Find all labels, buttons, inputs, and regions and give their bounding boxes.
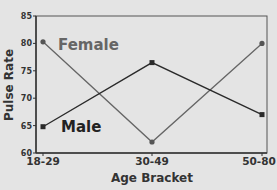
x-tick-label: 50-80	[242, 155, 276, 167]
y-tick-label: 85	[21, 12, 33, 21]
male-point-30-49	[150, 60, 155, 65]
chart-container: 60 65 70 75 80 85 18-29 30-49 50-80 Age …	[0, 0, 277, 190]
x-axis-label: Age Bracket	[111, 171, 193, 185]
y-tick-label: 75	[21, 67, 33, 76]
y-tick-label: 65	[21, 122, 33, 131]
female-point-50-80	[259, 41, 264, 46]
line-chart: 60 65 70 75 80 85 18-29 30-49 50-80 Age …	[0, 0, 277, 190]
y-axis-label: Pulse Rate	[2, 49, 16, 121]
y-tick-label: 70	[21, 94, 33, 103]
x-tick-label: 18-29	[26, 155, 60, 167]
x-tick-label: 30-49	[135, 155, 169, 167]
y-tick-label: 80	[21, 39, 33, 48]
female-point-30-49	[149, 139, 154, 144]
male-label: Male	[61, 118, 101, 136]
female-point-18-29	[40, 39, 45, 44]
y-ticks: 60 65 70 75 80 85	[21, 12, 36, 158]
female-label: Female	[58, 36, 119, 54]
x-ticks: 18-29 30-49 50-80	[26, 153, 276, 167]
male-point-18-29	[41, 124, 46, 129]
male-point-50-80	[260, 112, 265, 117]
